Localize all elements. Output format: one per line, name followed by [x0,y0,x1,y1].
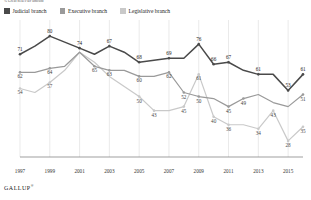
data-label: 28 [286,142,292,148]
data-point [212,63,215,66]
data-label: 52 [181,94,187,100]
legend-item-legislative[interactable]: Legislative branch [120,8,170,14]
data-label: 69 [166,50,172,56]
data-label: 66 [211,56,217,62]
data-label: 36 [226,126,232,132]
legend-label-executive: Executive branch [68,8,107,14]
series-legislative [19,52,305,142]
data-label: 76 [196,36,202,42]
data-label: 62 [166,73,172,79]
x-axis-tick-label: 2015 [283,168,293,174]
data-label: 62 [17,73,23,79]
data-label: 68 [137,54,143,60]
data-point [227,61,230,64]
data-point [287,89,290,92]
data-label: 45 [226,108,232,114]
legend-item-judicial[interactable]: Judicial branch [4,8,47,14]
data-point [257,73,260,76]
data-label: 80 [47,28,53,34]
x-axis-tick-label: 2011 [223,168,233,174]
data-label: 34 [256,130,262,136]
x-axis-tick-label: 2013 [253,168,263,174]
chart-subtitle: % Great deal/Fair amount [4,0,44,3]
chart-plot-area: 7180746768697666676153616264656360625250… [0,18,311,158]
legend-swatch-judicial-icon [4,8,10,14]
data-label: 54 [17,89,23,95]
gallup-wordmark: GALLUP [4,185,31,191]
legend-swatch-executive-icon [60,8,66,14]
chart-svg: 7180746768697666676153616264656360625250… [0,18,311,158]
series-line [20,36,303,90]
legend-item-executive[interactable]: Executive branch [60,8,107,14]
gallup-logo: GALLUP® [4,184,34,191]
data-label: 63 [107,71,113,77]
series-line [20,52,303,106]
data-point [197,43,200,46]
data-label: 57 [47,83,53,89]
data-point [48,35,51,38]
chart-data-labels: 7180746768697666676153616264656360625250… [17,28,306,148]
data-label: 50 [137,98,143,104]
data-label: 43 [271,112,277,118]
data-point [19,53,22,56]
data-label: 71 [17,46,23,52]
gallup-registered-icon: ® [31,184,34,188]
x-axis-tick-label: 2001 [74,168,84,174]
data-label: 60 [137,77,143,83]
data-label: 53 [286,82,292,88]
data-label: 67 [226,54,232,60]
data-point [168,57,171,60]
legend-label-judicial: Judicial branch [13,8,47,14]
data-label: 61 [300,66,306,72]
data-point [302,73,305,76]
chart-root: % Great deal/Fair amount Judicial branch… [0,0,311,200]
series-executive [19,52,305,108]
data-point [138,61,141,64]
data-label: 35 [300,128,306,134]
data-label: 45 [181,108,187,114]
chart-legend: Judicial branch Executive branch Legisla… [4,8,183,14]
x-axis-tick-label: 2009 [194,168,204,174]
x-axis-tick-label: 2005 [134,168,144,174]
data-label: 64 [47,69,53,75]
data-label: 40 [211,118,217,124]
series-judicial [19,35,305,92]
data-point [108,45,111,48]
data-label: 43 [151,112,157,118]
data-label: 67 [107,38,113,44]
x-axis-tick-label: 2003 [104,168,114,174]
legend-label-legislative: Legislative branch [129,8,170,14]
legend-swatch-legislative-icon [120,8,126,14]
data-label: 74 [77,40,83,46]
x-axis-tick-label: 1999 [45,168,55,174]
data-label: 65 [92,67,98,73]
data-label: 61 [196,75,202,81]
x-axis-tick-label: 1997 [15,168,25,174]
data-point [78,47,81,50]
data-label: 61 [256,66,262,72]
data-label: 51 [300,96,306,102]
data-label: 50 [196,98,202,104]
x-axis-labels: 1997199920012003200520072009201120132015 [0,168,311,180]
x-axis-tick-label: 2007 [164,168,174,174]
data-label: 49 [241,100,247,106]
